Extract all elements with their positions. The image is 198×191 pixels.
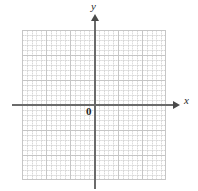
arrow-up-icon (91, 14, 99, 21)
y-axis-label: y (91, 1, 96, 12)
origin-label: 0 (86, 106, 92, 117)
arrow-right-icon (173, 101, 180, 109)
y-axis-line (94, 17, 96, 189)
coordinate-plane: x y 0 (0, 0, 198, 191)
x-axis-label: x (184, 95, 189, 106)
